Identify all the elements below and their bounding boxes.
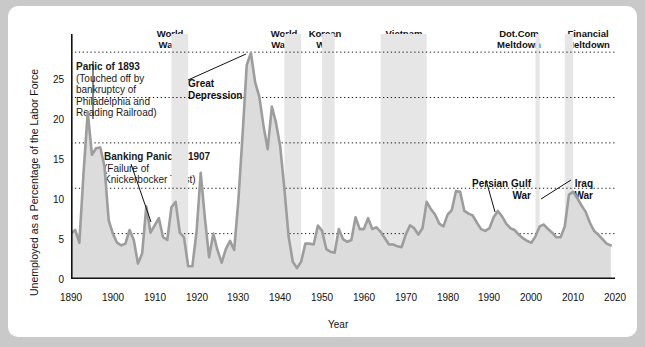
x-tick-1900: 1900 (93, 292, 133, 303)
unemployment-chart-plot (71, 34, 615, 279)
y-tick-25: 25 (42, 74, 64, 85)
x-tick-1990: 1990 (469, 292, 509, 303)
leader-line-banking-1907 (131, 164, 151, 222)
x-axis-title: Year (328, 319, 348, 330)
x-tick-1980: 1980 (428, 292, 468, 303)
x-tick-1910: 1910 (135, 292, 175, 303)
area-fill (71, 53, 611, 279)
x-tick-2010: 2010 (553, 292, 593, 303)
x-tick-1950: 1950 (302, 292, 342, 303)
y-tick-15: 15 (42, 154, 64, 165)
y-tick-5: 5 (42, 234, 64, 245)
x-tick-1970: 1970 (386, 292, 426, 303)
chart-card: Unemployed as a Percentage of the Labor … (8, 6, 637, 337)
gridlines (71, 52, 615, 233)
y-axis-title: Unemployed as a Percentage of the Labor … (28, 69, 40, 296)
x-tick-1930: 1930 (218, 292, 258, 303)
leader-line-great-depression (188, 54, 246, 80)
x-tick-1940: 1940 (260, 292, 300, 303)
x-tick-2020: 2020 (595, 292, 635, 303)
y-tick-10: 10 (42, 194, 64, 205)
x-tick-1960: 1960 (344, 292, 384, 303)
chart-page: Unemployed as a Percentage of the Labor … (0, 0, 645, 347)
x-tick-1920: 1920 (177, 292, 217, 303)
leader-line-persian-gulf (486, 180, 495, 212)
x-tick-2000: 2000 (511, 292, 551, 303)
y-tick-0: 0 (42, 274, 64, 285)
x-tick-1890: 1890 (51, 292, 91, 303)
y-tick-20: 20 (42, 114, 64, 125)
